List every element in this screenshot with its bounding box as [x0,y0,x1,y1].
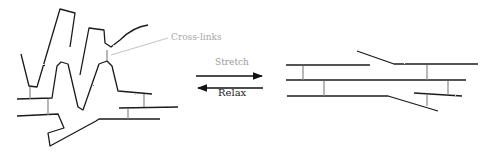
stretch-label: Stretch [215,57,249,67]
polymer-chain [287,96,438,111]
polymer-chain [414,93,462,96]
polymer-chain [80,25,148,75]
crosslinks-label: Cross-links [171,32,222,42]
polymer-diagram [0,0,490,156]
relax-label: Relax [218,87,246,98]
polymer-chain [21,9,75,87]
stretched-network [286,51,478,111]
polymer-chain [119,107,178,108]
stretched-crosslinks [303,65,448,106]
relaxed-crosslinks [30,50,144,119]
relaxed-network [17,9,178,146]
polymer-chain [17,114,160,146]
polymer-chain [357,51,478,64]
